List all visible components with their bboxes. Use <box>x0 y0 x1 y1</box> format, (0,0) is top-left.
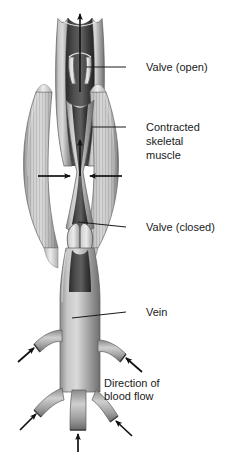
lower-vein-trunk <box>60 248 100 392</box>
tributary-lower-middle <box>70 390 86 430</box>
label-valve-closed-text: Valve (closed) <box>146 221 215 233</box>
muscle-pump-diagram: Valve (open) Contracted skeletal muscle … <box>0 0 225 456</box>
label-direction-of-blood-flow: Direction of blood flow <box>104 377 161 402</box>
label-contracted-muscle-line2: skeletal <box>146 135 183 147</box>
label-blood-flow-line2: blood flow <box>104 390 154 402</box>
label-vein-text: Vein <box>146 306 167 318</box>
vein-trunk-lumen <box>69 250 91 292</box>
label-contracted-muscle-line3: muscle <box>146 149 181 161</box>
label-blood-flow-line1: Direction of <box>104 377 161 389</box>
label-valve-open-text: Valve (open) <box>146 61 208 73</box>
label-contracted-muscle-line1: Contracted <box>146 121 200 133</box>
